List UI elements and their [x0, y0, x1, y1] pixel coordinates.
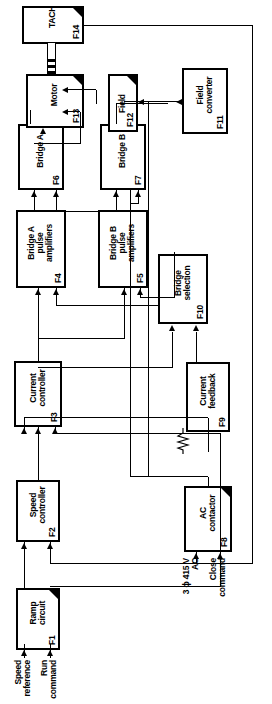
arrowhead-f8-in-close — [217, 553, 223, 559]
label-close-command: Close command — [209, 558, 227, 608]
wire-f9-to-f3-h — [208, 418, 209, 452]
wire-run-branch-right — [220, 434, 221, 587]
block-f7-label: Bridge B — [118, 126, 127, 188]
arrowhead-motor-hidden — [40, 128, 46, 134]
block-f5-label: Bridge B pulse amplifiers — [109, 212, 137, 286]
wire-run-branch-down — [50, 586, 220, 587]
block-f11-tag: F11 — [216, 115, 225, 129]
wire-tacho-down — [84, 25, 252, 26]
rotated-figure-wrapper: F1 Ramp circuit F2 Speed controller F3 C… — [0, 0, 272, 704]
arrowhead-f1-in-run — [47, 650, 53, 656]
block-f5-bridge-b-pulse-amplifiers[interactable]: F5 Bridge B pulse amplifiers — [98, 210, 148, 288]
block-f3-label: Current controller — [29, 363, 47, 425]
wire-tacho-return — [252, 25, 253, 564]
arrowhead-f12-in-field — [138, 99, 144, 105]
block-f2-label: Speed controller — [29, 482, 47, 540]
block-f11-label: Field converter — [196, 70, 214, 132]
arrowhead-f2-in-tacho — [47, 543, 53, 549]
block-f7-tag: F7 — [134, 175, 143, 185]
block-f8-label: AC contactor — [199, 488, 217, 550]
arrowhead-f5-in-current — [121, 289, 127, 295]
block-f13-motor[interactable]: F13 Motor — [26, 74, 84, 128]
current-shunt-icon — [176, 428, 190, 454]
arrowhead-motor-in-b — [62, 87, 68, 93]
wire-f2-to-f3 — [38, 426, 39, 480]
arrowhead-f2-in-ramp — [21, 543, 27, 549]
wire-f10-to-f5-v — [140, 297, 174, 298]
wire-f3-to-f5 — [124, 288, 125, 339]
arrowhead-f7-in-pulses — [113, 191, 119, 197]
arrowhead-f3-in-current — [21, 428, 27, 434]
block-diagram-canvas: F1 Ramp circuit F2 Speed controller F3 C… — [0, 0, 272, 704]
wire-motor-in-b-v — [66, 89, 96, 90]
wire-f3-bus-v — [38, 338, 124, 339]
block-f1-label: Ramp circuit — [29, 590, 47, 648]
wire-run-branch-up — [55, 433, 221, 434]
wire-tacho-up-to-f2 — [50, 563, 253, 564]
block-f8-ac-contactor[interactable]: F8 AC contactor — [184, 486, 232, 552]
wire-f10-to-f4-v — [56, 305, 158, 306]
block-f14-tacho[interactable]: F14 TACHO — [22, 6, 84, 44]
wire-f6-to-motor-h — [30, 110, 31, 124]
arrowhead-f1-in-ref — [21, 650, 27, 656]
block-f10-label: Bridge selection — [174, 256, 192, 322]
block-f4-label: Bridge A pulse amplifiers — [27, 212, 55, 286]
arrowhead-motor-in-a — [62, 109, 68, 115]
block-f6-label: Bridge A — [36, 126, 45, 188]
wire-supply-to-f7-v — [130, 203, 138, 204]
arrowhead-f3-in-run — [52, 428, 58, 434]
wire-f6-down — [34, 143, 80, 144]
arrowhead-f5-in-select — [137, 289, 143, 295]
arrowhead-f11-in-supply — [176, 99, 182, 105]
block-f7-bridge-b[interactable]: F7 Bridge B — [100, 124, 146, 190]
arrowhead-f4-in-select — [53, 289, 59, 295]
arrowhead-f4-in-current — [35, 289, 41, 295]
arrowhead-f10-in-feedback — [193, 325, 199, 331]
motor-tacho-coupling — [47, 56, 56, 74]
wire-f3-out — [38, 339, 39, 361]
arrowhead-f6-in-pulses — [31, 191, 37, 197]
block-f9-tag: F9 — [218, 417, 227, 427]
wire-f3-to-f10-h — [172, 332, 173, 368]
wire-motor-in-b-h — [96, 90, 97, 104]
wire-f9-to-f10 — [196, 332, 197, 362]
wire-f6-to-motor-bus — [80, 112, 81, 144]
block-f6-tag: F6 — [52, 175, 61, 185]
block-f2-speed-controller[interactable]: F2 Speed controller — [16, 480, 60, 542]
wire-f3-to-f4 — [38, 288, 39, 339]
wire-f11-to-f12-v — [124, 101, 182, 102]
block-f4-tag: F4 — [54, 273, 63, 283]
wire-f9-to-f3-v — [24, 417, 208, 418]
block-f14-tag: F14 — [72, 25, 81, 39]
wire-f8-up — [130, 476, 208, 477]
wire-supply-bus — [130, 190, 131, 477]
wire-f10-to-f5-h2 — [174, 252, 175, 298]
wire-supply-to-f6-v — [56, 211, 130, 212]
block-f5-tag: F5 — [136, 273, 145, 283]
label-run-command: Run command — [40, 660, 58, 704]
label-speed-reference: Speed reference — [14, 660, 32, 704]
block-f10-bridge-selection[interactable]: F10 Bridge selection — [158, 254, 208, 324]
motor-tacho-shaft — [47, 43, 56, 57]
label-supply-voltage: 3 ϕ 415 V AC — [182, 558, 200, 608]
wire-f8-out — [208, 477, 209, 486]
block-f2-tag: F2 — [48, 527, 57, 537]
arrowhead-f3-in-speed — [35, 428, 41, 434]
block-f13-label: Motor — [50, 76, 59, 126]
block-f14-label: TACHO — [48, 8, 57, 42]
wire-supply-bus-lower — [148, 101, 149, 477]
wire-motor-in-a-v — [66, 111, 80, 112]
wire-f3-to-f10-v — [38, 367, 172, 368]
block-f10-tag: F10 — [196, 305, 205, 319]
block-f11-field-converter[interactable]: F11 Field converter — [182, 68, 228, 134]
block-f4-bridge-a-pulse-amplifiers[interactable]: F4 Bridge A pulse amplifiers — [16, 210, 66, 288]
block-f1-tag: F1 — [48, 635, 57, 645]
block-f1-ramp-circuit[interactable]: F1 Ramp circuit — [16, 588, 60, 650]
arrowhead-f7-in-supply — [135, 191, 141, 197]
arrowhead-f10-in-demand — [169, 325, 175, 331]
arrowhead-f6-in-supply — [53, 191, 59, 197]
wire-f7-out — [116, 104, 117, 124]
arrowhead-f8-in-supply — [193, 553, 199, 559]
